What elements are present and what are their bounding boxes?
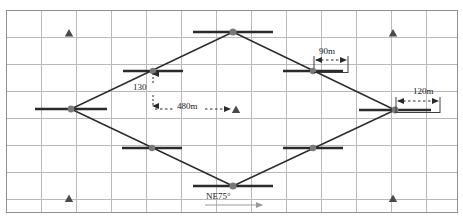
station-dot-northwest-station [150,68,156,74]
control-point-bottom-right-icon [389,195,397,203]
station-dot-northeast-station [310,68,316,74]
station-dot-south-vertex [229,182,236,189]
dimension-label-120m: 120m [413,87,434,96]
station-dot-southeast-station [310,145,316,151]
control-point-bottom-left-icon [65,195,73,203]
control-point-markers [65,29,397,202]
diagram-canvas [0,0,463,219]
control-point-center-icon [232,106,240,114]
survey-diagram: 130 480m 90m 120m NE75° [0,0,463,219]
station-dots [68,28,399,189]
station-bars [35,32,431,186]
grid-horizontal-lines [6,38,458,200]
diagram-frame [7,11,458,213]
station-dot-southwest-station [149,145,155,151]
dimension-label-130: 130 [133,83,147,92]
station-dot-north-vertex [229,28,236,35]
traverse-network [71,32,395,186]
dimension-label-480m: 480m [177,102,198,111]
azimuth-label-ne75: NE75° [206,192,231,201]
control-point-top-right-icon [389,29,397,37]
dimension-label-90m: 90m [319,47,335,56]
control-point-top-left-icon [65,29,73,37]
station-dot-west-vertex [68,106,75,113]
